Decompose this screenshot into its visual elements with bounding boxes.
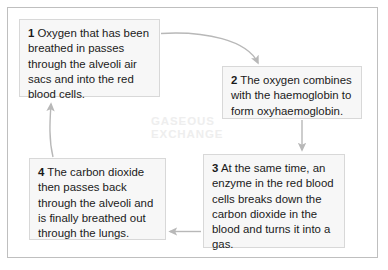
step-box-3: 3 At the same time, an enzyme in the red… <box>203 154 345 248</box>
step-4-text: The carbon dioxide then passes back thro… <box>38 166 153 239</box>
step-2-text: The oxygen combines with the haemoglobin… <box>231 74 352 117</box>
step-1-text: Oxygen that has been breathed in passes … <box>28 27 149 100</box>
step-3-text: At the same time, an enzyme in the red b… <box>212 162 334 250</box>
step-box-1: 1 Oxygen that has been breathed in passe… <box>19 19 160 97</box>
step-box-2: 2 The oxygen combines with the haemoglob… <box>222 66 362 119</box>
step-box-4: 4 The carbon dioxide then passes back th… <box>29 158 166 240</box>
gaseous-exchange-diagram: GASEOUS EXCHANGE 1 Oxygen that has been … <box>0 0 388 270</box>
